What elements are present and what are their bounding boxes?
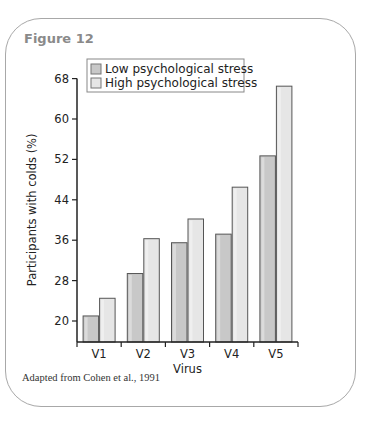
bar-highlight bbox=[190, 220, 193, 341]
bar-highlight bbox=[145, 240, 148, 341]
legend-swatch bbox=[91, 78, 101, 88]
y-tick-label: 44 bbox=[54, 193, 69, 207]
y-tick-label: 52 bbox=[54, 152, 69, 166]
x-tick-label: V1 bbox=[92, 347, 107, 361]
axes-group: 20283644526068V1V2V3V4V5VirusParticipant… bbox=[25, 72, 298, 376]
y-tick-label: 68 bbox=[54, 72, 69, 86]
bar-highlight bbox=[217, 236, 220, 342]
bar-highlight bbox=[129, 275, 132, 341]
legend-label: High psychological stress bbox=[105, 76, 257, 90]
y-tick-label: 28 bbox=[54, 274, 69, 288]
y-tick-label: 20 bbox=[54, 314, 69, 328]
y-tick-label: 60 bbox=[54, 112, 69, 126]
bar-highlight bbox=[261, 157, 264, 341]
legend-label: Low psychological stress bbox=[105, 62, 253, 76]
x-tick-label: V5 bbox=[268, 347, 283, 361]
y-axis-title: Participants with colds (%) bbox=[25, 133, 39, 286]
bar-highlight bbox=[101, 300, 104, 342]
x-tick-label: V2 bbox=[136, 347, 151, 361]
legend-swatch bbox=[91, 64, 101, 74]
legend: Low psychological stressHigh psychologic… bbox=[87, 59, 257, 92]
bar-highlight bbox=[85, 317, 88, 341]
x-axis-title: Virus bbox=[173, 362, 202, 376]
x-tick-label: V4 bbox=[224, 347, 239, 361]
bar-chart: 20283644526068V1V2V3V4V5VirusParticipant… bbox=[0, 0, 371, 421]
x-tick-label: V3 bbox=[180, 347, 195, 361]
bars-group bbox=[83, 86, 292, 342]
bar-highlight bbox=[278, 88, 281, 342]
source-caption: Adapted from Cohen et al., 1991 bbox=[22, 372, 160, 383]
y-tick-label: 36 bbox=[54, 233, 69, 247]
bar-highlight bbox=[173, 244, 176, 341]
bar-highlight bbox=[234, 189, 237, 342]
